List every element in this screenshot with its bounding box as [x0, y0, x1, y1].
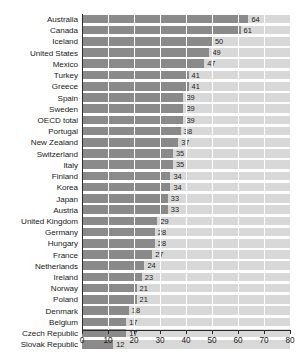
category-label: Ireland [0, 272, 78, 283]
chart-row: Switzerland35 [0, 149, 308, 160]
x-axis-tick [264, 331, 265, 334]
x-axis-tick-label: 10 [98, 336, 118, 345]
bar [82, 318, 126, 327]
bar-value-label: 35 [176, 148, 184, 159]
category-label: New Zealand [0, 137, 78, 148]
chart-row: United Kingdom29 [0, 216, 308, 227]
bar [82, 15, 248, 24]
bar-value-label: 34 [173, 171, 181, 182]
bar-value-label: 21 [140, 283, 148, 294]
chart-row: Finland34 [0, 171, 308, 182]
category-label: Japan [0, 194, 78, 205]
bar-value-label: 39 [186, 92, 194, 103]
category-label: Mexico [0, 59, 78, 70]
bar-value-label: 49 [212, 47, 220, 58]
bar [82, 149, 173, 158]
bar [82, 273, 142, 282]
chart-row: Australia64 [0, 14, 308, 25]
x-axis-tick [160, 331, 161, 334]
bar [82, 217, 157, 226]
chart-row: Spain39 [0, 93, 308, 104]
x-axis-tick [186, 331, 187, 334]
bar-value-label: 18 [132, 305, 140, 316]
x-axis-tick [108, 331, 109, 334]
bar [82, 93, 183, 102]
category-label: France [0, 250, 78, 261]
bar-value-label: 50 [215, 36, 223, 47]
x-axis-tick [238, 331, 239, 334]
bar [82, 116, 183, 125]
bar [82, 172, 170, 181]
bar [82, 183, 170, 192]
x-axis-tick-label: 50 [202, 336, 222, 345]
chart-row: Germany28 [0, 227, 308, 238]
bar-value-label: 23 [145, 272, 153, 283]
category-label: Sweden [0, 104, 78, 115]
category-label: Norway [0, 283, 78, 294]
bar-value-label: 47 [207, 58, 215, 69]
chart-row: United States49 [0, 48, 308, 59]
category-label: Belgium [0, 317, 78, 328]
x-axis-tick [134, 331, 135, 334]
bar [82, 284, 137, 293]
bar [82, 239, 155, 248]
bar-value-label: 35 [176, 159, 184, 170]
bar-value-label: 21 [140, 294, 148, 305]
bar [82, 194, 168, 203]
bar-value-label: 38 [184, 126, 192, 137]
x-axis-tick-label: 60 [228, 336, 248, 345]
chart-row: Korea34 [0, 182, 308, 193]
bar-value-label: 41 [192, 70, 200, 81]
category-label: United Kingdom [0, 216, 78, 227]
bar-value-label: 33 [171, 193, 179, 204]
category-label: Slovak Republic [0, 339, 78, 350]
bar [82, 48, 209, 57]
category-label: Poland [0, 294, 78, 305]
bar-value-label: 41 [192, 81, 200, 92]
category-label: Italy [0, 160, 78, 171]
bar [82, 205, 168, 214]
chart-row: Belgium17 [0, 317, 308, 328]
x-axis-tick-label: 40 [176, 336, 196, 345]
chart-row: Sweden39 [0, 104, 308, 115]
chart-row: Portugal38 [0, 126, 308, 137]
bar [82, 138, 178, 147]
x-axis-tick-label: 0 [72, 336, 92, 345]
bar-value-label: 39 [186, 103, 194, 114]
x-axis-tick [212, 331, 213, 334]
x-axis-tick-label: 20 [124, 336, 144, 345]
chart-row: Turkey41 [0, 70, 308, 81]
bar [82, 26, 241, 35]
chart-row: France27 [0, 250, 308, 261]
category-label: Spain [0, 93, 78, 104]
chart-row: Austria33 [0, 205, 308, 216]
category-label: Canada [0, 25, 78, 36]
bar [82, 160, 173, 169]
bar [82, 71, 189, 80]
category-label: Australia [0, 14, 78, 25]
category-label: Portugal [0, 126, 78, 137]
chart-row: Canada61 [0, 25, 308, 36]
category-label: Hungary [0, 238, 78, 249]
bar [82, 127, 181, 136]
bar-value-label: 64 [251, 14, 259, 25]
category-label: OECD total [0, 115, 78, 126]
bar-value-label: 29 [160, 216, 168, 227]
category-label: Czech Republic [0, 328, 78, 339]
category-label: United States [0, 48, 78, 59]
bar-value-label: 34 [173, 182, 181, 193]
bar-value-label: 37 [181, 137, 189, 148]
bar [82, 250, 152, 259]
chart-row: Poland21 [0, 294, 308, 305]
bar [82, 261, 144, 270]
x-axis-tick [82, 331, 83, 334]
bar [82, 59, 204, 68]
bar-value-label: 33 [171, 204, 179, 215]
chart-rows: Australia64Canada61Iceland50United State… [0, 14, 308, 351]
chart-row: Japan33 [0, 194, 308, 205]
chart-row: Greece41 [0, 81, 308, 92]
chart-row: Netherlands24 [0, 261, 308, 272]
chart-row: Denmark18 [0, 306, 308, 317]
category-label: Denmark [0, 306, 78, 317]
chart-row: New Zealand37 [0, 137, 308, 148]
